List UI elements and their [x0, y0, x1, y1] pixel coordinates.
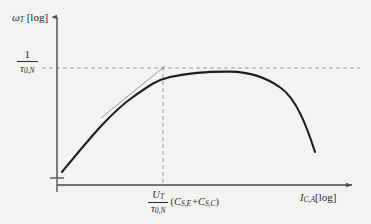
x-tick-c2-subscript: S,C	[205, 199, 216, 208]
y-axis-symbol: ω	[12, 11, 20, 23]
x-axis-scale-note: [log]	[315, 191, 336, 203]
low-current-asymptote-tangent	[101, 66, 165, 118]
y-axis-label: ωT [log]	[12, 12, 48, 24]
x-tick-numerator: UT	[148, 190, 168, 203]
x-tick-c1-symbol: C	[174, 196, 181, 207]
x-tick-capacitance-term: (CS,E +CS,C)	[168, 197, 219, 208]
x-tick-numerator-subscript: T	[160, 192, 164, 201]
y-tick-numerator: 1	[17, 49, 38, 62]
y-axis-tick-label: 1 τ0,N	[17, 49, 38, 75]
x-tick-c1-subscript: S,E	[181, 199, 191, 208]
y-tick-denominator: τ0,N	[17, 62, 38, 75]
transit-frequency-figure: ωT [log] 1 τ0,N UT τ0,N (CS,E +CS,C) IC,…	[0, 0, 371, 224]
x-tick-denominator: τ0,N	[148, 203, 168, 215]
y-tick-denominator-subscript: 0,N	[24, 66, 35, 75]
x-tick-close-paren: )	[216, 196, 220, 207]
x-axis-label: IC,A[log]	[300, 192, 336, 204]
x-tick-denominator-subscript: 0,N	[155, 206, 166, 215]
x-axis-tick-label: UT τ0,N (CS,E +CS,C)	[148, 190, 219, 215]
y-tick-fraction: 1 τ0,N	[17, 49, 38, 75]
x-tick-fraction: UT τ0,N	[148, 190, 168, 215]
transit-frequency-curve	[62, 72, 315, 172]
x-tick-numerator-symbol: U	[152, 189, 160, 200]
x-tick-c2-symbol: C	[198, 196, 205, 207]
y-axis-scale-note: [log]	[27, 11, 48, 23]
x-axis-symbol-subscript: C,A	[304, 195, 315, 204]
